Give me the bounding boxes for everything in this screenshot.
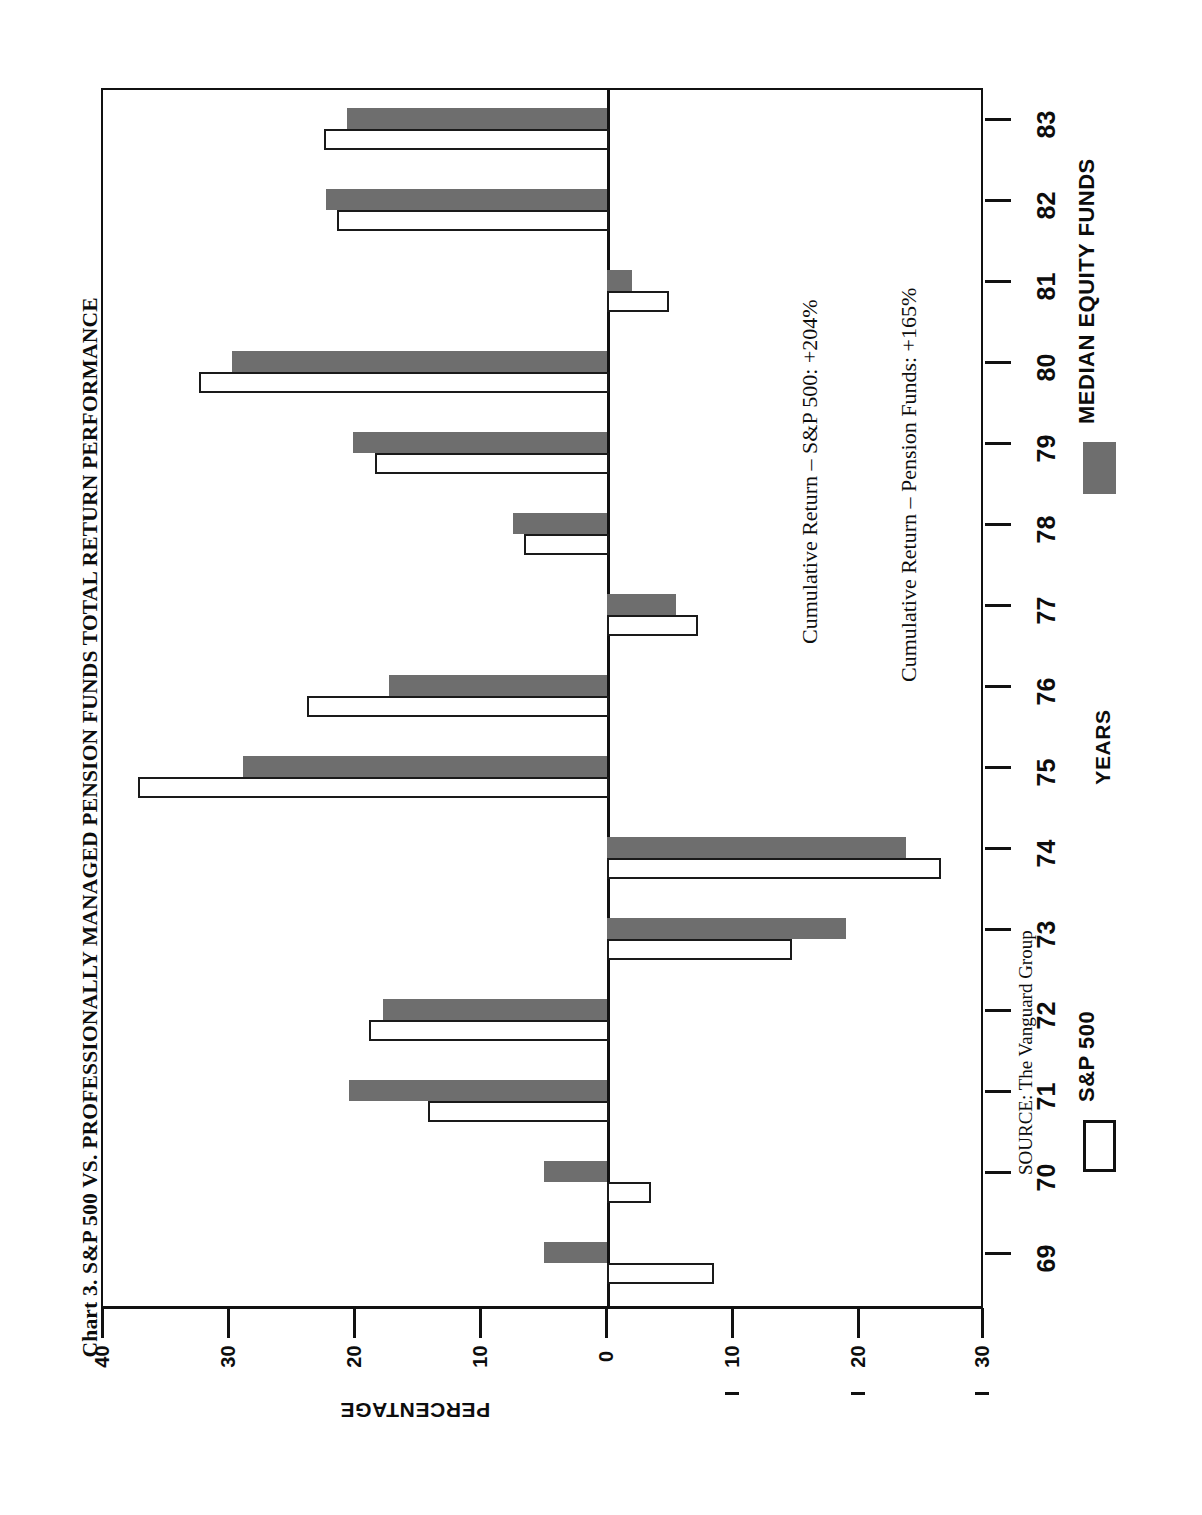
year-label-82: 82 <box>1032 176 1061 236</box>
year-tick-74 <box>985 847 1011 850</box>
year-label-75: 75 <box>1032 743 1061 803</box>
year-tick-73 <box>985 928 1011 931</box>
bar-sp500-76 <box>307 696 609 717</box>
bar-sp500-70 <box>607 1182 651 1203</box>
bar-sp500-71 <box>428 1101 609 1122</box>
bar-median-82 <box>326 189 607 210</box>
year-label-76: 76 <box>1032 662 1061 722</box>
bar-median-79 <box>353 432 608 453</box>
year-tick-78 <box>985 523 1011 526</box>
bar-median-81 <box>607 270 632 291</box>
bar-median-80 <box>232 351 608 372</box>
bar-median-76 <box>389 675 607 696</box>
value-tick-label-neg10: 10 <box>721 1332 744 1382</box>
year-label-74: 74 <box>1032 824 1061 884</box>
bar-median-72 <box>383 999 607 1020</box>
year-label-69: 69 <box>1032 1229 1061 1289</box>
year-label-78: 78 <box>1032 500 1061 560</box>
bar-median-78 <box>513 513 608 534</box>
year-tick-69 <box>985 1252 1011 1255</box>
year-tick-80 <box>985 361 1011 364</box>
annotation-cumulative-pension: Cumulative Return – Pension Funds: +165% <box>896 288 922 682</box>
bar-sp500-78 <box>524 534 609 555</box>
legend-label-sp500: S&P 500 <box>1074 1011 1100 1102</box>
year-tick-72 <box>985 1009 1011 1012</box>
plot-area: Cumulative Return – S&P 500: +204% Cumul… <box>101 88 983 1306</box>
year-tick-79 <box>985 442 1011 445</box>
year-tick-76 <box>985 685 1011 688</box>
bar-median-70 <box>544 1161 607 1182</box>
bar-median-77 <box>607 594 676 615</box>
year-tick-71 <box>985 1090 1011 1093</box>
legend-label-median-equity-funds: MEDIAN EQUITY FUNDS <box>1074 158 1100 424</box>
value-tick-label-20: 20 <box>343 1332 366 1382</box>
bar-sp500-80 <box>199 372 609 393</box>
category-axis-title: YEARS <box>1091 677 1115 817</box>
bar-median-73 <box>607 918 846 939</box>
year-tick-82 <box>985 199 1011 202</box>
value-tick-label-10: 10 <box>469 1332 492 1382</box>
year-tick-83 <box>985 118 1011 121</box>
value-tick-label-neg20: 20 <box>847 1332 870 1382</box>
bar-sp500-83 <box>324 129 610 150</box>
value-tick-label-neg30: 30 <box>971 1332 994 1382</box>
value-axis-title: PERCENTAGE <box>290 1398 540 1422</box>
value-tick-label-0: 0 <box>595 1332 618 1382</box>
year-tick-81 <box>985 280 1011 283</box>
bar-median-69 <box>544 1242 607 1263</box>
year-label-83: 83 <box>1032 95 1061 155</box>
minus-sign-neg30 <box>975 1392 989 1395</box>
bar-median-75 <box>243 756 607 777</box>
bar-sp500-75 <box>138 777 609 798</box>
year-tick-70 <box>985 1171 1011 1174</box>
minus-sign-neg10 <box>725 1392 739 1395</box>
legend-swatch-median-equity-funds <box>1083 442 1116 494</box>
bar-sp500-74 <box>607 858 941 879</box>
minus-sign-neg20 <box>851 1392 865 1395</box>
bar-sp500-82 <box>337 210 609 231</box>
bar-sp500-79 <box>375 453 609 474</box>
bar-median-74 <box>607 837 906 858</box>
bar-sp500-81 <box>607 291 669 312</box>
year-label-77: 77 <box>1032 581 1061 641</box>
page-title: Chart 3. S&P 500 VS. PROFESSIONALLY MANA… <box>78 68 103 1358</box>
bar-sp500-77 <box>607 615 698 636</box>
bar-median-83 <box>347 108 607 129</box>
year-label-81: 81 <box>1032 257 1061 317</box>
bar-sp500-69 <box>607 1263 714 1284</box>
year-tick-77 <box>985 604 1011 607</box>
bar-sp500-72 <box>369 1020 609 1041</box>
bar-median-71 <box>349 1080 607 1101</box>
annotation-cumulative-sp500: Cumulative Return – S&P 500: +204% <box>797 299 823 644</box>
legend-swatch-sp500 <box>1083 1120 1116 1172</box>
value-tick-label-30: 30 <box>217 1332 240 1382</box>
source-note: SOURCE: The Vanguard Group <box>1015 930 1037 1175</box>
year-label-80: 80 <box>1032 338 1061 398</box>
year-label-79: 79 <box>1032 419 1061 479</box>
value-tick-label-40: 40 <box>91 1332 114 1382</box>
value-axis-line <box>101 1306 983 1309</box>
bar-sp500-73 <box>607 939 792 960</box>
year-tick-75 <box>985 766 1011 769</box>
